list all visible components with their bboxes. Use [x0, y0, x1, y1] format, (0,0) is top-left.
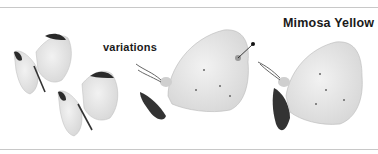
variations-label: variations	[103, 41, 157, 53]
butterfly-open-upper-icon	[14, 34, 71, 94]
butterfly-open-lower-icon	[58, 71, 118, 136]
butterfly-side-perched-right-icon	[258, 42, 362, 130]
species-title: Mimosa Yellow	[283, 16, 374, 30]
